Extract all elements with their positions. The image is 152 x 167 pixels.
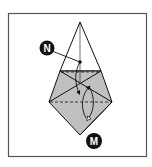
label-n-text: N	[43, 43, 50, 54]
label-m-text: M	[90, 136, 98, 147]
origami-diagram: N M	[0, 0, 152, 167]
label-m: M	[86, 133, 102, 149]
label-n: N	[40, 41, 55, 56]
